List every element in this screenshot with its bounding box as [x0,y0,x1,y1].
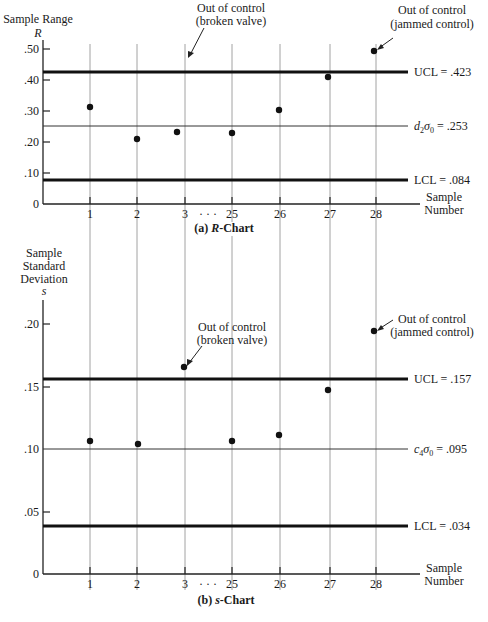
r-lcl-label: LCL = .084 [414,173,470,187]
r-chart-ylabel: Sample Range [3,12,73,26]
svg-text:26: 26 [274,577,286,591]
s-chart-xlabel: Sample [426,561,462,575]
r-chart-y-tick-labels: .50 .40 .30 .20 .10 0 [24,42,39,211]
svg-text:Standard: Standard [23,259,66,273]
svg-text:.30: .30 [24,104,39,118]
svg-text:.15: .15 [24,380,39,394]
x-ellipsis: · · · [199,207,217,221]
svg-text:2: 2 [134,207,140,221]
s-chart-xlabel-2: Number [424,574,463,588]
s-chart-y-tick-labels: .20 .15 .10 .05 0 [24,317,39,581]
svg-text:Out of control: Out of control [197,1,266,15]
svg-text:.50: .50 [24,42,39,56]
svg-text:3: 3 [182,207,188,221]
r-ucl-label: UCL = .423 [414,65,471,79]
svg-text:.20: .20 [24,317,39,331]
svg-text:25: 25 [226,577,238,591]
x-ellipsis: · · · [199,577,217,591]
svg-text:.05: .05 [24,505,39,519]
svg-text:27: 27 [324,207,336,221]
svg-text:Sample: Sample [26,246,62,260]
svg-text:2: 2 [134,577,140,591]
svg-text:.40: .40 [24,73,39,87]
svg-text:Out of control: Out of control [398,3,467,17]
svg-text:.20: .20 [24,135,39,149]
svg-text:Out of control: Out of control [198,320,267,334]
r-chart-ylabel-symbol: R [33,26,42,40]
r-chart-xlabel-2: Number [424,203,463,217]
svg-text:.10: .10 [24,442,39,456]
svg-text:0: 0 [33,197,39,211]
s-chart-x-tick-labels: 1 2 3 · · · 25 26 27 28 [87,577,382,591]
svg-text:0: 0 [33,567,39,581]
svg-text:(a) R-Chart: (a) R-Chart [194,221,254,235]
svg-text:Out of control: Out of control [398,312,467,326]
s-chart: Sample Standard Deviation s .20 .15 .10 … [20,246,473,607]
s-center-label: c4σ0 = .095 [414,442,467,458]
svg-text:26: 26 [274,207,286,221]
svg-text:28: 28 [370,577,382,591]
s-annotation-broken-valve: Out of control (broken valve) [187,320,267,366]
svg-text:(jammed control): (jammed control) [390,17,474,31]
svg-text:25: 25 [226,207,238,221]
s-lcl-label: LCL = .034 [414,519,470,533]
r-chart: Sample Range R .50 .40 .30 .20 [3,1,474,590]
svg-text:(broken valve): (broken valve) [196,14,266,28]
s-annotation-jammed-control: Out of control (jammed control) [377,312,474,339]
r-chart-xlabel: Sample [426,190,462,204]
svg-text:1: 1 [87,577,93,591]
r-annotation-jammed-control: Out of control (jammed control) [377,3,474,50]
s-chart-ylabel: Sample Standard Deviation s [20,246,67,298]
svg-text:28: 28 [370,207,382,221]
svg-text:s: s [42,284,47,298]
svg-text:3: 3 [182,577,188,591]
s-ucl-label: UCL = .157 [414,372,471,386]
r-chart-x-tick-labels: 1 2 3 · · · 25 26 27 28 [87,207,382,221]
svg-text:(jammed control): (jammed control) [390,325,474,339]
svg-text:1: 1 [87,207,93,221]
r-center-label: d2σ0 = .253 [414,119,468,135]
r-annotation-broken-valve: Out of control (broken valve) [188,1,266,58]
control-charts: Sample Range R .50 .40 .30 .20 [0,0,488,622]
svg-text:27: 27 [324,577,336,591]
svg-text:(broken valve): (broken valve) [197,333,267,347]
s-chart-caption: (b) s-Chart [197,593,254,607]
svg-text:.10: .10 [24,166,39,180]
